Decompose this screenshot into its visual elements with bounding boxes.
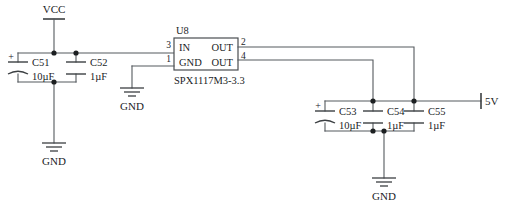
c52-value: 1µF bbox=[90, 71, 107, 82]
ground-symbol-output: GND bbox=[372, 178, 396, 202]
net-label-vcc: VCC bbox=[43, 3, 66, 53]
u8-pin-out-bottom-name: OUT bbox=[211, 57, 233, 68]
u8-out-pin4-wire bbox=[238, 60, 373, 101]
junction-c52-input-rail bbox=[73, 50, 78, 55]
u8-out-pin2-wire bbox=[238, 47, 414, 101]
regulator-gnd-label: GND bbox=[120, 100, 144, 112]
c55-designator: C55 bbox=[428, 106, 446, 117]
u8-pin-in-number: 3 bbox=[166, 40, 171, 50]
junction-input-ground-rail bbox=[51, 79, 56, 84]
net-label-5v: 5V bbox=[481, 93, 499, 109]
c51-polarity-marker: + bbox=[8, 51, 14, 62]
c55-value: 1µF bbox=[428, 120, 445, 131]
c52-designator: C52 bbox=[90, 57, 108, 68]
u8-part-number: SPX1117M3-3.3 bbox=[174, 75, 245, 86]
vcc-label: VCC bbox=[43, 3, 66, 15]
c51-value: 10µF bbox=[32, 71, 55, 82]
capacitor-c52: C52 1µF bbox=[66, 57, 108, 82]
circuit-schematic: VCC + C51 10µF C52 1µF GND U8 SPX1117 bbox=[0, 0, 509, 216]
junction-out-pin4-rail bbox=[370, 98, 375, 103]
c53-value: 10µF bbox=[339, 120, 362, 131]
u8-pin-gnd-name: GND bbox=[179, 57, 202, 68]
junction-output-ground-stem bbox=[381, 128, 386, 133]
ic-u8-regulator: U8 SPX1117M3-3.3 IN GND OUT OUT 3 1 2 4 bbox=[166, 25, 246, 86]
input-gnd-label: GND bbox=[42, 155, 66, 167]
capacitor-c54: C54 1µF bbox=[363, 106, 405, 131]
u8-pin-out-top-name: OUT bbox=[211, 42, 233, 53]
junction-vcc-input-rail bbox=[51, 50, 56, 55]
output-5v-label: 5V bbox=[485, 95, 499, 107]
c53-polarity-marker: + bbox=[315, 100, 321, 111]
junction-out-pin2-rail bbox=[411, 98, 416, 103]
c53-designator: C53 bbox=[339, 106, 357, 117]
c54-designator: C54 bbox=[387, 106, 405, 117]
junction-c54-ground-rail bbox=[370, 128, 375, 133]
u8-pin-gnd-number: 1 bbox=[166, 54, 171, 64]
ground-symbol-regulator: GND bbox=[120, 88, 144, 112]
c54-value: 1µF bbox=[387, 120, 404, 131]
capacitor-c55: C55 1µF bbox=[404, 106, 446, 131]
c51-designator: C51 bbox=[32, 57, 50, 68]
capacitor-c51: + C51 10µF bbox=[8, 51, 55, 82]
u8-pin-out-top-number: 2 bbox=[241, 37, 246, 47]
ground-symbol-input: GND bbox=[42, 143, 66, 167]
u8-designator: U8 bbox=[176, 25, 189, 36]
capacitor-c53: + C53 10µF bbox=[315, 100, 362, 131]
output-gnd-label: GND bbox=[372, 190, 396, 202]
u8-pin-in-name: IN bbox=[179, 42, 190, 53]
